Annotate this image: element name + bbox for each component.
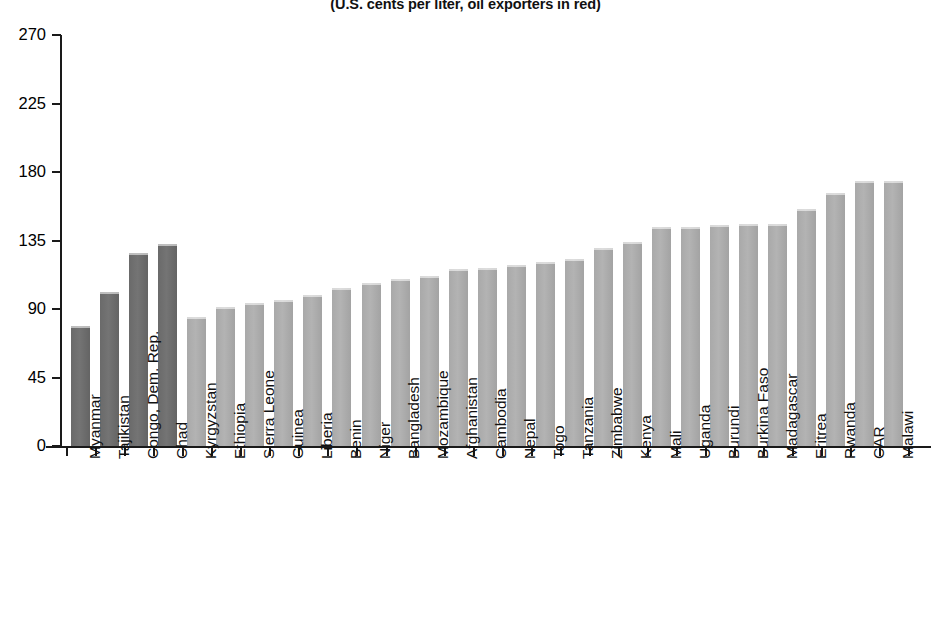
fuel-price-bar-chart: (U.S. cents per liter, oil exporters in …: [0, 0, 931, 644]
bar-top-highlight: [594, 248, 613, 250]
y-tick-mark: [52, 240, 61, 242]
x-tick-label: Ethiopia: [232, 403, 247, 459]
bar-top-highlight: [855, 181, 874, 183]
y-tick-mark: [52, 103, 61, 105]
bar-top-highlight: [478, 268, 497, 270]
bar-top-highlight: [420, 276, 439, 278]
bar-top-highlight: [623, 242, 642, 244]
x-tick-label: Togo: [551, 425, 566, 459]
x-tick-label: Mali: [668, 431, 683, 459]
bar-top-highlight: [332, 288, 351, 290]
y-tick-mark: [52, 308, 61, 310]
x-tick-label: Malawi: [900, 411, 915, 459]
bar-top-highlight: [274, 300, 293, 302]
bar-top-highlight: [216, 307, 235, 309]
x-tick-label: Mozambique: [435, 370, 450, 459]
x-tick-label: Guinea: [290, 409, 305, 459]
x-tick-label: Bangladesh: [406, 377, 421, 459]
bar-top-highlight: [565, 259, 584, 261]
x-tick-label: Liberia: [319, 412, 334, 459]
x-tick-label: Kyrgyzstan: [203, 382, 218, 459]
x-tick-label: Madagascar: [784, 374, 799, 459]
bar: [855, 181, 874, 446]
y-tick-mark: [52, 171, 61, 173]
x-tick-label: Eritrea: [813, 413, 828, 459]
x-tick-label: Cambodia: [493, 388, 508, 459]
bar: [797, 209, 816, 446]
bar-top-highlight: [507, 265, 526, 267]
y-tick-mark: [52, 377, 61, 379]
bar-top-highlight: [710, 225, 729, 227]
x-tick-label: Benin: [348, 419, 363, 459]
bar: [652, 227, 671, 446]
y-tick-label: 90: [0, 300, 46, 316]
x-tick-label: Afghanistan: [464, 377, 479, 459]
bar-top-highlight: [536, 262, 555, 264]
x-tick-label: Burkina Faso: [755, 368, 770, 459]
y-tick-label: 225: [0, 95, 46, 111]
x-tick-label: Congo, Dem. Rep.: [145, 331, 160, 459]
x-tick-label: Kenya: [638, 415, 653, 459]
x-tick-label: Tajikistan: [116, 395, 131, 459]
bar-top-highlight: [797, 209, 816, 211]
bar-top-highlight: [884, 181, 903, 183]
y-tick-label: 180: [0, 163, 46, 179]
y-tick-mark: [52, 445, 61, 447]
y-tick-label: 45: [0, 369, 46, 385]
y-tick-label: 135: [0, 232, 46, 248]
x-tick-label: Sierra Leone: [261, 370, 276, 459]
bar-top-highlight: [303, 295, 322, 297]
x-tick-label: Uganda: [697, 405, 712, 459]
bar-top-highlight: [362, 283, 381, 285]
bar: [884, 181, 903, 446]
y-tick-mark: [52, 34, 61, 36]
plot-area: 04590135180225270 MyanmarTajikistanCongo…: [0, 0, 931, 644]
bar-top-highlight: [681, 227, 700, 229]
bar-top-highlight: [158, 244, 177, 246]
bar-top-highlight: [129, 253, 148, 255]
bar-top-highlight: [71, 326, 90, 328]
x-tick-label: Niger: [377, 422, 392, 459]
x-tick-label: Burundi: [726, 406, 741, 459]
x-tick-label: CAR: [871, 426, 886, 459]
bar-top-highlight: [245, 303, 264, 305]
y-tick-label: 270: [0, 26, 46, 42]
bar-top-highlight: [449, 269, 468, 271]
x-tick-label: Tanzania: [580, 397, 595, 459]
bar-top-highlight: [826, 193, 845, 195]
bar-top-highlight: [768, 224, 787, 226]
x-tick-label: Rwanda: [842, 402, 857, 459]
bar-top-highlight: [739, 224, 758, 226]
bar-top-highlight: [100, 292, 119, 294]
x-tick-label: Zimbabwe: [609, 388, 624, 460]
bar-top-highlight: [187, 317, 206, 319]
bar-top-highlight: [391, 279, 410, 281]
x-tick-mark: [66, 447, 68, 456]
bar-top-highlight: [652, 227, 671, 229]
x-tick-label: Nepal: [522, 419, 537, 460]
x-tick-label: Myanmar: [87, 394, 102, 459]
x-tick-label: Chad: [174, 422, 189, 459]
bar: [536, 262, 555, 446]
y-tick-label: 0: [0, 437, 46, 453]
